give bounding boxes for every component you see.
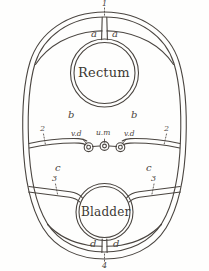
callout-2-left-label: 2 — [40, 125, 45, 133]
upper-divider-right-inner — [123, 143, 180, 148]
leader-line-2-left — [44, 134, 46, 145]
callout-3-left-label: 3 — [52, 175, 57, 183]
vas-deferens-left-duct — [84, 143, 93, 152]
bladder-label: Bladder — [81, 206, 130, 218]
vas-deferens-right-duct-lumen — [119, 145, 123, 149]
vas-deferens-left-duct-lumen — [87, 145, 91, 149]
callout-4-label: 4 — [102, 262, 107, 270]
urethra-membranous-duct-lumen — [103, 144, 107, 148]
rectum-label: Rectum — [78, 66, 130, 79]
leader-line-2-right — [164, 134, 167, 145]
top-septum-left — [102, 17, 103, 39]
leader-line-3-left — [56, 184, 58, 194]
vas-deferens-left-label: v.d — [71, 130, 82, 138]
region-b-right-label: b — [131, 110, 137, 120]
duct-connector-right — [110, 146, 117, 147]
top-septum-right — [107, 17, 108, 39]
region-d-left-label: d — [90, 239, 96, 249]
region-a-left-label: a — [91, 29, 97, 39]
leader-line-3-right — [152, 184, 154, 194]
region-b-left-label: b — [68, 110, 74, 120]
callout-2-right-label: 2 — [164, 125, 169, 133]
duct-connector-left — [93, 146, 100, 147]
region-d-right-label: d — [113, 239, 119, 249]
urethra-membranous-label: u.m — [96, 129, 110, 137]
vas-deferens-right-duct — [116, 143, 125, 152]
anatomical-figure: Rectum Bladder 1 4 2 2 3 3 a a b b c c d… — [0, 0, 209, 271]
upper-divider-left-inner — [29, 143, 86, 148]
region-c-right-label: c — [146, 163, 152, 173]
region-a-right-label: a — [112, 29, 118, 39]
callout-3-right-label: 3 — [151, 175, 156, 183]
vas-deferens-right-label: v.d — [124, 130, 135, 138]
region-c-left-label: c — [55, 163, 61, 173]
callout-1-label: 1 — [102, 0, 107, 8]
urethra-membranous-duct — [100, 142, 109, 151]
